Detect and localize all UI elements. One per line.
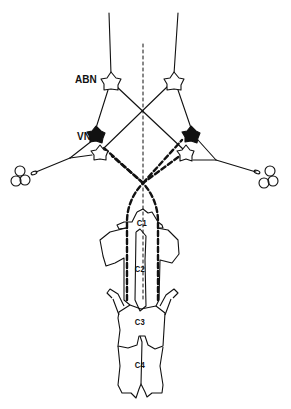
right-abn-axon	[174, 13, 178, 74]
right-vn-neuron	[182, 126, 200, 143]
vertebra-label-c1: C1	[137, 219, 147, 228]
vertebra-c4	[118, 346, 163, 398]
left-labyrinth-icon	[11, 166, 30, 186]
diagram-canvas: ABN VN C1 C2 C3 C4	[0, 0, 291, 409]
abn-label: ABN	[75, 75, 97, 85]
vertebra-label-c4: C4	[135, 361, 145, 370]
left-abn-neuron	[101, 72, 121, 90]
crossing-fiber-right-to-left	[104, 86, 168, 148]
right-abn-neuron	[164, 72, 184, 90]
vertebra-label-c3: C3	[135, 318, 145, 327]
vn-label: VN	[77, 132, 91, 142]
left-abn-axon	[109, 13, 111, 74]
right-lower-neuron	[177, 145, 194, 161]
crossing-fiber-left-to-right	[116, 86, 184, 150]
right-labyrinth-icon	[259, 166, 278, 188]
vertebra-label-c2: C2	[135, 265, 145, 274]
right-dashed-pathway	[104, 148, 158, 300]
pathway-diagram	[0, 0, 291, 409]
